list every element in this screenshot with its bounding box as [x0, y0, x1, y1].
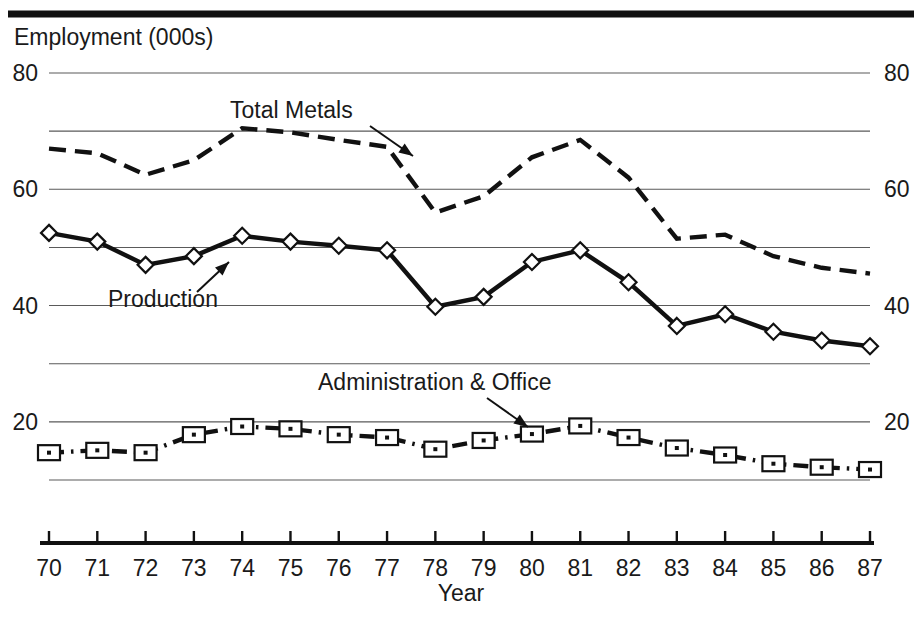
y-tick-right-40: 40 — [884, 293, 910, 319]
x-tick-label-72: 72 — [133, 555, 159, 581]
y-tick-left-20: 20 — [12, 409, 38, 435]
x-tick-label-70: 70 — [36, 555, 62, 581]
x-tick-label-81: 81 — [567, 555, 593, 581]
annotation-label-1: Production — [108, 286, 218, 312]
marker-square-center-dot — [144, 451, 148, 455]
marker-square-center-dot — [337, 433, 341, 437]
annotation-label-2: Administration & Office — [318, 369, 552, 395]
marker-square-center-dot — [192, 433, 196, 437]
marker-square-center-dot — [675, 446, 679, 450]
x-tick-label-74: 74 — [229, 555, 255, 581]
marker-square-center-dot — [820, 465, 824, 469]
y-tick-left-40: 40 — [12, 293, 38, 319]
y-tick-right-20: 20 — [884, 409, 910, 435]
marker-square-center-dot — [723, 453, 727, 457]
marker-square-center-dot — [288, 427, 292, 431]
marker-square-center-dot — [530, 432, 534, 436]
y-tick-left-80: 80 — [12, 60, 38, 86]
x-tick-label-76: 76 — [326, 555, 352, 581]
x-tick-label-71: 71 — [84, 555, 110, 581]
x-tick-label-86: 86 — [809, 555, 835, 581]
marker-square-center-dot — [868, 468, 872, 472]
x-tick-label-77: 77 — [374, 555, 400, 581]
marker-square-center-dot — [771, 462, 775, 466]
y-axis-title: Employment (000s) — [14, 24, 213, 50]
x-tick-label-73: 73 — [181, 555, 207, 581]
x-tick-label-80: 80 — [519, 555, 545, 581]
marker-square-center-dot — [433, 447, 437, 451]
marker-square-center-dot — [385, 436, 389, 440]
employment-line-chart: 80604020 80604020 Employment (000s) 7071… — [0, 0, 922, 618]
y-tick-right-80: 80 — [884, 60, 910, 86]
x-tick-label-84: 84 — [712, 555, 738, 581]
marker-square-center-dot — [482, 438, 486, 442]
y-tick-left-60: 60 — [12, 176, 38, 202]
x-tick-label-79: 79 — [471, 555, 497, 581]
x-tick-label-87: 87 — [857, 555, 883, 581]
marker-square-center-dot — [578, 424, 582, 428]
marker-square-center-dot — [95, 448, 99, 452]
annotation-label-0: Total Metals — [230, 97, 353, 123]
x-tick-label-82: 82 — [616, 555, 642, 581]
chart-container: 80604020 80604020 Employment (000s) 7071… — [0, 0, 922, 618]
x-tick-label-75: 75 — [278, 555, 304, 581]
marker-square-center-dot — [47, 451, 51, 455]
marker-square-center-dot — [627, 436, 631, 440]
marker-square-center-dot — [240, 425, 244, 429]
x-tick-label-78: 78 — [423, 555, 449, 581]
x-tick-label-83: 83 — [664, 555, 690, 581]
x-axis-title: Year — [438, 580, 485, 606]
y-tick-right-60: 60 — [884, 176, 910, 202]
x-tick-label-85: 85 — [761, 555, 787, 581]
